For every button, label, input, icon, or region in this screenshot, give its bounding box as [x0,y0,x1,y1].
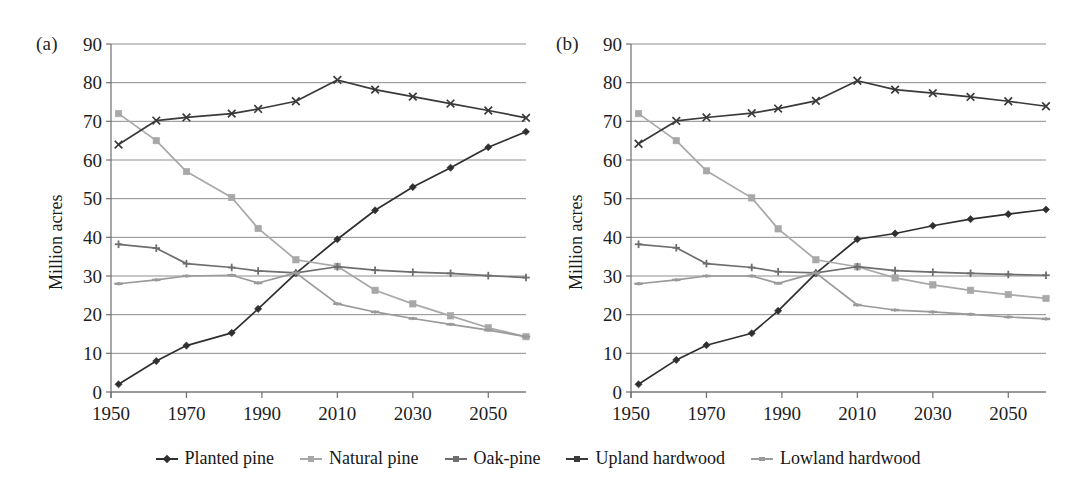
data-point-marker [255,225,261,231]
data-point-marker [703,260,711,268]
series-line [635,110,1049,301]
series-line [635,240,1050,279]
data-point-marker [183,168,189,174]
series-polyline [119,273,526,337]
data-point-marker [409,268,417,276]
data-point-marker [333,302,341,305]
legend-point-swatch [308,456,314,462]
legend-label: Lowland hardwood [780,448,920,469]
series-polyline [119,132,526,384]
data-point-marker [115,110,121,116]
legend-item[interactable]: Planted pine [156,448,274,469]
y-axis-tick-label: 80 [603,72,622,93]
data-point-marker [522,335,530,338]
x-axis-tick-label: 1970 [687,403,725,424]
data-point-marker [635,140,643,148]
data-point-marker [891,308,899,311]
x-axis-tick-label: 2010 [318,403,356,424]
data-point-marker [1005,211,1012,218]
legend-item[interactable]: Oak-pine [445,448,541,469]
data-point-marker [228,274,236,277]
data-point-marker [966,313,974,316]
x-axis-tick-label: 2050 [469,403,507,424]
data-point-marker [748,274,756,277]
data-point-marker [930,282,936,288]
data-point-marker [774,268,782,276]
data-point-marker [672,244,680,252]
legend-point-swatch [574,456,580,462]
y-axis-tick-label: 40 [83,227,102,248]
data-point-marker [634,282,642,285]
legend-point-swatch [453,456,459,462]
data-point-marker [929,310,937,313]
legend-item[interactable]: Natural pine [300,448,418,469]
y-axis-tick-label: 10 [603,343,622,364]
data-point-marker [152,278,160,281]
series-polyline [639,81,1046,144]
series-line [635,206,1050,388]
x-axis-tick-label: 2010 [838,403,876,424]
data-point-marker [447,313,453,319]
data-point-marker [1042,206,1049,213]
series-line [114,271,530,338]
series-polyline [119,244,526,277]
data-point-marker [635,110,641,116]
data-point-marker [748,264,756,272]
chart-legend: Planted pineNatural pineOak-pineUpland h… [0,448,1076,498]
legend-label: Upland hardwood [595,448,724,469]
series-polyline [119,114,526,337]
x-axis-tick-label: 1950 [612,403,650,424]
x-axis-tick-label: 2030 [914,403,952,424]
data-point-marker [1005,291,1011,297]
series-line [115,240,530,281]
y-axis-tick-label: 60 [603,150,622,171]
data-point-marker [1042,271,1050,279]
data-point-marker [635,240,643,248]
legend-marker-plus-icon [445,452,467,466]
data-point-marker [812,271,820,274]
series-polyline [639,209,1046,384]
panels-container: (a) Million acres 0102030405060708090195… [0,0,1076,440]
legend-label: Natural pine [329,448,418,469]
legend-item[interactable]: Lowland hardwood [751,448,920,469]
data-point-marker [484,272,492,280]
y-axis-tick-label: 90 [603,34,622,55]
panel-b-plot: 0102030405060708090195019701990201020302… [538,0,1076,440]
x-axis-tick-label: 1950 [92,403,130,424]
data-point-marker [152,244,160,252]
y-axis-tick-label: 40 [603,227,622,248]
panel-a-plot: 0102030405060708090195019701990201020302… [0,0,538,440]
legend-label: Planted pine [185,448,274,469]
y-axis-tick-label: 20 [603,304,622,325]
data-point-marker [254,281,262,284]
data-point-marker [229,194,235,200]
panel-b-svg: 0102030405060708090195019701990201020302… [538,0,1076,440]
legend-point-swatch [759,457,765,461]
data-point-marker [1042,317,1050,320]
data-point-marker [410,301,416,307]
data-point-marker [929,268,937,276]
data-point-marker [775,226,781,232]
data-point-marker [292,271,300,274]
data-point-marker [446,323,454,326]
data-point-marker [1004,271,1012,279]
y-axis-tick-label: 50 [603,188,622,209]
y-axis-tick-label: 30 [603,266,622,287]
legend-label: Oak-pine [474,448,541,469]
series-polyline [119,80,526,145]
legend-marker-square-icon [300,452,322,466]
series-line [634,271,1050,320]
y-axis-tick-label: 50 [83,188,102,209]
y-axis-tick-label: 0 [613,382,623,403]
data-point-marker [774,282,782,285]
figure-root: (a) Million acres 0102030405060708090195… [0,0,1076,503]
data-point-marker [182,274,190,277]
y-axis-tick-label: 0 [93,382,103,403]
data-point-marker [447,164,454,171]
data-point-marker [485,144,492,151]
legend-item[interactable]: Upland hardwood [566,448,724,469]
data-point-marker [673,137,679,143]
y-axis-tick-label: 20 [83,304,102,325]
legend-marker-dash-icon [751,452,773,466]
data-point-marker [228,264,236,272]
